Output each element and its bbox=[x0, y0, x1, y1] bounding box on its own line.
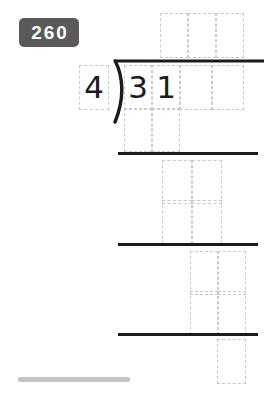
work-row-4-cell-1[interactable] bbox=[190, 251, 218, 295]
work-row-3-cell-2[interactable] bbox=[192, 200, 222, 244]
quotient-cell-2[interactable] bbox=[188, 13, 216, 58]
work-row-5-cell-1[interactable] bbox=[190, 291, 218, 335]
work-row-3-cell-1[interactable] bbox=[162, 200, 192, 244]
work-row-4-cell-2[interactable] bbox=[218, 251, 246, 295]
work-row-5-cell-2[interactable] bbox=[218, 291, 246, 335]
dividend-cell-3[interactable] bbox=[180, 65, 212, 110]
worksheet-canvas: 260 4 3 1 bbox=[0, 0, 277, 407]
dividend-digit-1: 3 bbox=[124, 65, 152, 110]
work-divider-3 bbox=[118, 333, 258, 336]
quotient-cell-1[interactable] bbox=[160, 13, 188, 58]
work-row-2-cell-2[interactable] bbox=[192, 160, 222, 204]
work-divider-1 bbox=[118, 152, 258, 155]
work-row-2-cell-1[interactable] bbox=[162, 160, 192, 204]
remainder-cell[interactable] bbox=[217, 339, 246, 384]
page-number-badge: 260 bbox=[19, 18, 79, 47]
dividend-cell-4[interactable] bbox=[212, 65, 244, 110]
work-divider-2 bbox=[118, 243, 258, 246]
quotient-cell-3[interactable] bbox=[216, 13, 244, 58]
progress-indicator[interactable] bbox=[18, 377, 130, 382]
work-row-1-cell-2[interactable] bbox=[152, 108, 180, 152]
divisor-digit: 4 bbox=[79, 65, 109, 110]
work-row-1-cell-1[interactable] bbox=[124, 108, 152, 152]
dividend-digit-2: 1 bbox=[152, 65, 180, 110]
